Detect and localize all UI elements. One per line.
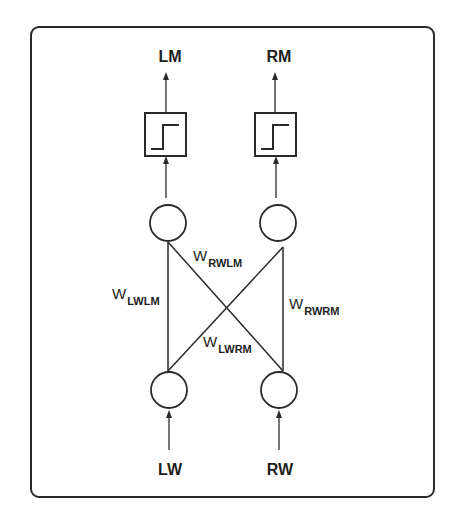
weight-label-rwlm: WRWLM	[193, 247, 242, 264]
weight-symbol: W	[112, 285, 126, 302]
weight-subscript: RWRM	[304, 305, 339, 317]
input-label-lw: LW	[158, 461, 182, 479]
weight-label-lwrm: WLWRM	[203, 333, 252, 350]
weight-subscript: RWLM	[208, 257, 242, 269]
output-label-rm: RM	[267, 48, 292, 66]
weight-label-rwrm: WRWRM	[289, 295, 339, 312]
weight-symbol: W	[203, 333, 217, 350]
weight-symbol: W	[193, 247, 207, 264]
weight-subscript: LWRM	[218, 343, 252, 355]
weight-subscript: LWLM	[127, 295, 159, 307]
step-function-icon-left	[145, 113, 186, 156]
output-neuron-lm	[150, 205, 186, 241]
weight-label-lwlm: WLWLM	[112, 285, 160, 302]
output-label-lm: LM	[158, 48, 181, 66]
input-neuron-rw	[261, 372, 297, 408]
output-neuron-rm	[260, 205, 296, 241]
diagram-canvas: LM RM LW RW WLWLM WRWLM WLWRM WRWRM	[0, 0, 461, 530]
step-function-icon-right	[255, 113, 296, 156]
input-label-rw: RW	[267, 461, 293, 479]
input-neuron-lw	[151, 372, 187, 408]
weight-symbol: W	[289, 295, 303, 312]
